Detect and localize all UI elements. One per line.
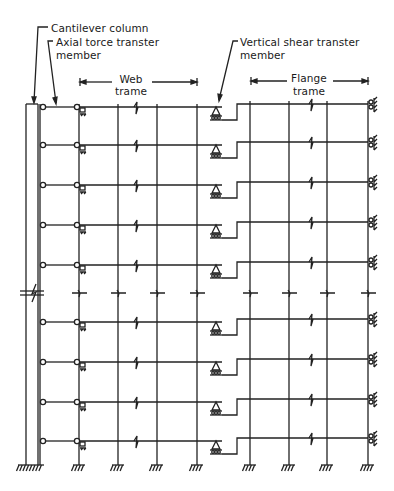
end-roller-icon: [369, 400, 373, 404]
end-roller-icon: [369, 360, 373, 364]
shear-transfer-member: [222, 438, 368, 454]
end-support-hatch-icon: [374, 97, 377, 112]
axial-leader-line: [48, 41, 56, 103]
ground-hatch: [153, 465, 156, 471]
roller-base-icon: [80, 232, 86, 234]
ground-hatch: [323, 465, 326, 471]
roller-icon: [80, 108, 85, 112]
hinge-icon: [40, 262, 45, 267]
ground-hatch: [326, 465, 329, 471]
end-support-hatch-icon: [374, 431, 377, 446]
roller-wheel-icon: [215, 155, 218, 158]
roller-wheel-icon: [218, 275, 221, 278]
beam-break-icon: [134, 436, 138, 448]
hinge-icon: [40, 359, 45, 364]
end-roller-icon: [369, 105, 373, 109]
roller-icon: [80, 363, 85, 367]
ground-hatch: [190, 465, 193, 471]
end-roller-icon: [369, 178, 373, 182]
beam-break-icon: [134, 180, 138, 192]
arrowhead-icon: [80, 80, 86, 84]
ground-hatch: [370, 465, 373, 471]
ground-hatch: [243, 465, 246, 471]
roller-icon: [80, 226, 85, 230]
roller-wheel-icon: [218, 235, 221, 238]
hinge-icon: [40, 319, 45, 324]
end-support-hatch-icon: [374, 312, 377, 327]
vertical-shear-member-label: Vertical shear transter: [240, 37, 360, 48]
arrowhead-icon: [362, 79, 368, 83]
hinge-icon: [40, 438, 45, 443]
shear-leader-line: [219, 41, 238, 100]
cantilever-column-label: Cantilever column: [51, 23, 149, 34]
ground-hatch: [72, 465, 75, 471]
roller-base-icon: [80, 409, 86, 411]
roller-wheel-icon: [215, 412, 218, 415]
ground-hatch: [114, 465, 117, 471]
beam-break-icon: [309, 99, 313, 111]
hinge-icon: [40, 182, 45, 187]
frame-diagram: [0, 0, 394, 491]
shear-transfer-member: [222, 319, 368, 335]
flange-frame-label-2: trame: [287, 86, 331, 97]
roller-wheel-icon: [212, 195, 215, 198]
ground-hatch: [17, 465, 20, 471]
hinge-icon: [74, 104, 79, 109]
shear-support-triangle-icon: [212, 441, 220, 449]
end-roller-icon: [369, 258, 373, 262]
ground-hatch: [78, 465, 81, 471]
end-roller-icon: [369, 355, 373, 359]
hinge-icon: [74, 182, 79, 187]
break-zigzag-icon: [32, 284, 36, 302]
roller-wheel-icon: [212, 332, 215, 335]
beam-break-icon: [134, 397, 138, 409]
beam-break-icon: [134, 102, 138, 114]
roller-wheel-icon: [212, 275, 215, 278]
ground-hatch: [159, 465, 162, 471]
vertical-shear-member-label-2: member: [240, 50, 285, 61]
roller-base-icon: [80, 192, 86, 194]
ground-hatch: [285, 465, 288, 471]
end-roller-icon: [369, 320, 373, 324]
shear-transfer-member: [222, 399, 368, 415]
flange-frame-label: Flange: [286, 73, 332, 84]
roller-icon: [80, 323, 85, 327]
web-frame-label-2: trame: [111, 86, 151, 97]
roller-wheel-icon: [215, 275, 218, 278]
ground-hatch: [156, 465, 159, 471]
hinge-icon: [74, 142, 79, 147]
end-roller-icon: [369, 138, 373, 142]
end-support-hatch-icon: [374, 352, 377, 367]
ground-hatch: [329, 465, 332, 471]
shear-support-triangle-icon: [212, 322, 220, 330]
shear-support-triangle-icon: [212, 402, 220, 410]
roller-wheel-icon: [215, 117, 218, 120]
ground-hatch: [39, 465, 42, 471]
beam-break-icon: [309, 314, 313, 326]
ground-hatch: [361, 465, 364, 471]
roller-base-icon: [80, 329, 86, 331]
beam-break-icon: [134, 317, 138, 329]
roller-wheel-icon: [218, 155, 221, 158]
hinge-icon: [74, 399, 79, 404]
end-roller-icon: [369, 100, 373, 104]
roller-icon: [80, 146, 85, 150]
roller-base-icon: [80, 272, 86, 274]
end-roller-icon: [369, 315, 373, 319]
beam-break-icon: [309, 394, 313, 406]
end-roller-icon: [369, 218, 373, 222]
hinge-icon: [40, 104, 45, 109]
roller-base-icon: [80, 152, 86, 154]
shear-support-triangle-icon: [212, 107, 220, 115]
roller-base-icon: [80, 448, 86, 450]
hinge-icon: [74, 438, 79, 443]
axial-force-member-label: Axial torce transter: [56, 37, 159, 48]
beam-break-icon: [134, 260, 138, 272]
ground-hatch: [364, 465, 367, 471]
roller-icon: [80, 403, 85, 407]
roller-wheel-icon: [212, 412, 215, 415]
hinge-icon: [40, 222, 45, 227]
hinge-icon: [40, 142, 45, 147]
ground-hatch: [193, 465, 196, 471]
ground-hatch: [288, 465, 291, 471]
